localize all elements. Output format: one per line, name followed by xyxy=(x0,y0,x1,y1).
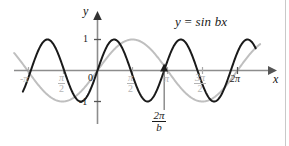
x-tick-denominator: 2 xyxy=(127,83,134,94)
x-tick-label-minus-pi: -π xyxy=(20,74,28,84)
x-tick-numerator: π xyxy=(58,73,65,83)
equation-lhs: y xyxy=(175,14,181,29)
x-tick-label-pi-over-2: π 2 xyxy=(127,73,134,94)
y-tick-label-minus-1: -1 xyxy=(79,97,87,107)
x-tick-label-minus-pi-over-2: π 2 xyxy=(58,73,65,94)
x-tick-denominator: 2 xyxy=(58,83,65,94)
figure-right-border xyxy=(285,0,286,146)
y-tick-label-1: 1 xyxy=(83,34,88,44)
period-denominator: b xyxy=(152,121,165,133)
x-tick-denominator: 2 xyxy=(194,83,206,94)
x-tick-label-3pi-over-2: 3π 2 xyxy=(194,73,206,94)
equation-annotation: y = sin bx xyxy=(175,14,227,30)
equation-rhs: sin bx xyxy=(195,14,227,29)
equation-operator: = xyxy=(184,14,192,29)
period-numerator: 2π xyxy=(152,110,165,121)
x-tick-numerator: π xyxy=(127,73,134,83)
y-axis-label: y xyxy=(83,5,88,17)
period-marker xyxy=(160,64,168,111)
x-tick-numerator: 3π xyxy=(194,73,206,83)
x-axis-label: x xyxy=(273,73,278,85)
x-tick-label-pi: π xyxy=(164,74,169,84)
origin-label: 0 xyxy=(88,73,93,83)
period-label: 2π b xyxy=(145,110,173,133)
sine-graph-figure: y x 1 -1 0 -π π 2 π 2 π 3π 2 2π y = sin … xyxy=(0,0,289,146)
x-tick-label-2pi: 2π xyxy=(230,74,240,84)
